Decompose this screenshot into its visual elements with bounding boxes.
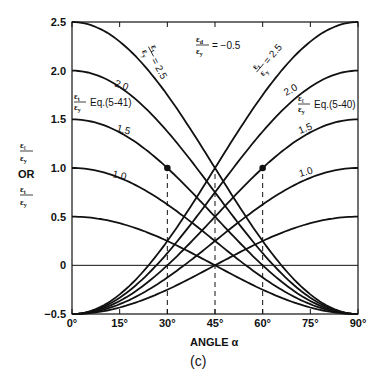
figure-subtitle: (c): [190, 353, 206, 369]
svg-text:εy: εy: [298, 104, 305, 115]
svg-text:εℓ: εℓ: [20, 140, 27, 151]
label-desc-2.0: 2.0: [113, 78, 130, 93]
svg-text:Eq.(5-40): Eq.(5-40): [314, 99, 356, 110]
y-tick-label: 2.0: [51, 65, 66, 77]
svg-text:εd: εd: [196, 34, 204, 45]
svg-text:= 2.5: = 2.5: [261, 41, 284, 66]
label-desc-1.0: 1.0: [112, 168, 128, 182]
svg-text:εy: εy: [74, 102, 81, 113]
y-tick-label: −0.5: [44, 308, 66, 320]
x-tick-labels: 0°15°30°45°60°75°90°: [67, 317, 367, 329]
svg-text:εy: εy: [257, 66, 270, 78]
y-tick-labels: −0.500.51.01.52.02.5: [44, 16, 66, 320]
x-tick-label: 0°: [67, 317, 78, 329]
label-asc-2.5: εt εy = 2.5: [249, 38, 288, 79]
svg-text:= −0.5: = −0.5: [212, 40, 241, 51]
y-tick-label: 1.5: [51, 113, 66, 125]
y-axis-title: εℓ εy OR εt εy: [18, 140, 35, 208]
x-tick-label: 90°: [350, 317, 367, 329]
svg-text:εt: εt: [20, 184, 26, 195]
dashed-guides: [167, 168, 262, 314]
y-tick-label: 0: [60, 259, 66, 271]
svg-text:εy: εy: [196, 46, 203, 57]
marker-dot: [164, 165, 171, 172]
svg-text:OR: OR: [18, 168, 35, 180]
x-axis-title: ANGLE α: [190, 336, 239, 348]
svg-text:εℓ: εℓ: [298, 93, 305, 104]
x-tick-label: 15°: [111, 317, 128, 329]
svg-text:εy: εy: [139, 48, 152, 59]
y-tick-label: 1.0: [51, 162, 66, 174]
y-tick-label: 2.5: [51, 16, 66, 28]
right-curve-labels: 2.0 1.5 1.0 εt εy = 2.5 εℓ εy Eq.(5-40): [249, 38, 356, 179]
label-desc-2.5: εt εy = 2.5: [139, 42, 174, 84]
left-eq-label: εt εy Eq.(5-41): [74, 91, 132, 113]
right-eq-label: εℓ εy Eq.(5-40): [298, 93, 356, 115]
x-tick-label: 30°: [159, 317, 176, 329]
label-asc-2.0: 2.0: [282, 81, 300, 97]
chart: 0°15°30°45°60°75°90° −0.500.51.01.52.02.…: [0, 0, 387, 379]
label-asc-1.5: 1.5: [297, 120, 314, 136]
svg-text:Eq.(5-41): Eq.(5-41): [90, 97, 132, 108]
x-tick-label: 45°: [207, 317, 224, 329]
svg-text:εy: εy: [20, 153, 27, 164]
y-tick-label: 0.5: [51, 211, 66, 223]
param-label: εd εy = −0.5: [196, 34, 241, 57]
svg-text:= 2.5: = 2.5: [149, 56, 169, 81]
svg-text:εy: εy: [20, 197, 27, 208]
x-tick-label: 75°: [302, 317, 319, 329]
marker-dot: [259, 165, 266, 172]
svg-text:εt: εt: [74, 91, 80, 102]
label-desc-1.5: 1.5: [115, 122, 132, 136]
x-tick-label: 60°: [254, 317, 271, 329]
